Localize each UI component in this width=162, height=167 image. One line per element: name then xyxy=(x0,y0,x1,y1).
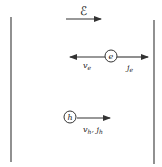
electron-current-label: je xyxy=(125,63,133,73)
hole-label: vh, jh xyxy=(83,125,103,135)
diagram-canvas: ℰ e ve je h vh, jh xyxy=(0,0,162,167)
field-label: ℰ xyxy=(80,4,87,18)
hole-symbol: h xyxy=(68,113,73,122)
carrier-drift-diagram: ℰ e ve je h vh, jh xyxy=(0,0,162,167)
electron-velocity-label: ve xyxy=(83,61,92,71)
electron-symbol: e xyxy=(109,52,114,61)
